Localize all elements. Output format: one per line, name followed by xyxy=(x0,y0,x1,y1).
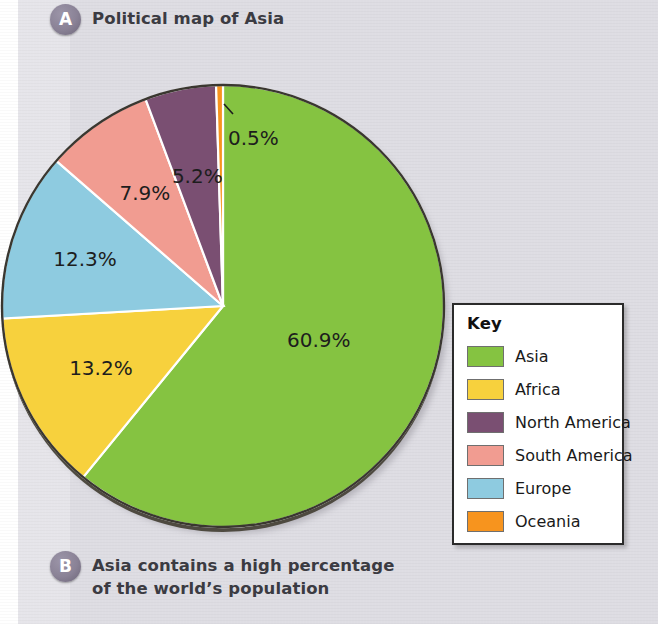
legend-item-label: South America xyxy=(515,446,633,465)
legend-item-europe: Europe xyxy=(467,472,622,505)
legend-rows: AsiaAfricaNorth AmericaSouth AmericaEuro… xyxy=(467,340,622,538)
legend-title: Key xyxy=(467,314,622,333)
pie-label-oceania: 0.5% xyxy=(228,126,279,150)
pie-label-south-america: 7.9% xyxy=(119,181,170,205)
legend-item-africa: Africa xyxy=(467,373,622,406)
caption-b-line2: of the world’s population xyxy=(92,578,395,601)
legend-item-asia: Asia xyxy=(467,340,622,373)
pie-label-north-america: 5.2% xyxy=(172,164,223,188)
pie-slices xyxy=(2,85,444,527)
legend-swatch xyxy=(467,346,504,367)
legend-swatch xyxy=(467,445,504,466)
legend-item-north-america: North America xyxy=(467,406,622,439)
legend-item-label: Europe xyxy=(515,479,571,498)
legend-box: Key AsiaAfricaNorth AmericaSouth America… xyxy=(452,303,624,545)
pie-chart: 60.9%13.2%12.3%7.9%5.2% 0.5% xyxy=(0,78,448,548)
pie-chart-svg: 60.9%13.2%12.3%7.9%5.2% xyxy=(0,78,448,548)
legend-item-south-america: South America xyxy=(467,439,622,472)
pie-label-africa: 13.2% xyxy=(69,356,133,380)
legend-item-oceania: Oceania xyxy=(467,505,622,538)
caption-a-badge: A xyxy=(50,4,81,35)
caption-b-line1: Asia contains a high percentage xyxy=(92,555,395,578)
legend-item-label: North America xyxy=(515,413,631,432)
caption-b-text: Asia contains a high percentage of the w… xyxy=(92,551,395,601)
caption-b-badge: B xyxy=(50,551,81,582)
legend-swatch xyxy=(467,478,504,499)
caption-a-text: Political map of Asia xyxy=(92,4,284,31)
legend-item-label: Oceania xyxy=(515,512,580,531)
pie-label-asia: 60.9% xyxy=(287,328,351,352)
legend-item-label: Asia xyxy=(515,347,549,366)
caption-b: B Asia contains a high percentage of the… xyxy=(50,551,395,601)
legend-item-label: Africa xyxy=(515,380,561,399)
pie-label-europe: 12.3% xyxy=(53,247,117,271)
caption-a: A Political map of Asia xyxy=(50,4,284,35)
legend-swatch xyxy=(467,379,504,400)
legend-swatch xyxy=(467,511,504,532)
legend-swatch xyxy=(467,412,504,433)
